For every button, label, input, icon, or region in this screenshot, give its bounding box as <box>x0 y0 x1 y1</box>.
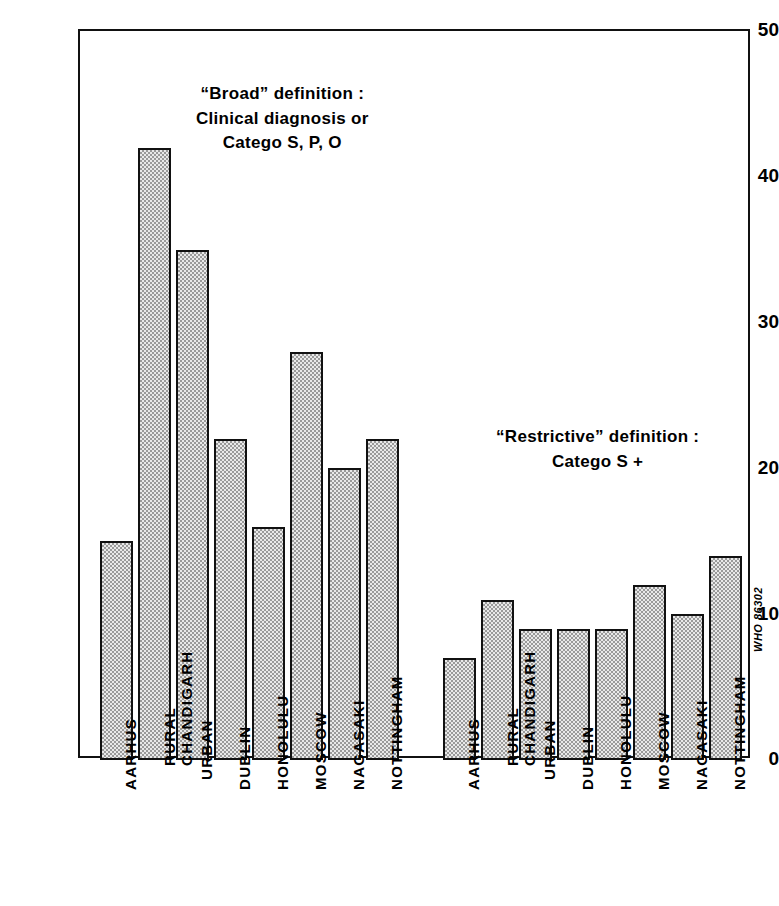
x-axis-label-line: NOTTINGHAM <box>731 640 748 790</box>
x-axis-label-line: MOSCOW <box>312 640 329 790</box>
x-axis-label-dublin: DUBLIN <box>236 640 253 790</box>
bar-chart-figure: C a s e s p e r 1 0 0 , 0 0 0 50 40 30 2… <box>0 0 779 906</box>
x-axis-label-line: RURAL <box>161 616 178 766</box>
x-axis-label-honolulu: HONOLULU <box>617 640 634 790</box>
x-axis-label-moscow: MOSCOW <box>312 640 329 790</box>
x-axis-label-dublin: DUBLIN <box>579 640 596 790</box>
x-axis-label-urban-chandigarh: URBAN <box>198 630 215 780</box>
x-axis-label-aarhus: AARHUS <box>465 640 482 790</box>
annotation-line: Clinical diagnosis or <box>196 107 369 132</box>
x-axis-label-nottingham: NOTTINGHAM <box>388 640 405 790</box>
x-axis-label-moscow: MOSCOW <box>655 640 672 790</box>
x-axis-label-line: DUBLIN <box>236 640 253 790</box>
x-axis-label-line: AARHUS <box>122 640 139 790</box>
who-credit-label: WHO 86302 <box>752 542 764 652</box>
x-axis-label-aarhus: AARHUS <box>122 640 139 790</box>
x-axis-label-line: NOTTINGHAM <box>388 640 405 790</box>
x-axis-label-line: CHANDIGARH <box>521 616 538 766</box>
annotation-broad-definition: “Broad” definition :Clinical diagnosis o… <box>196 82 369 156</box>
x-axis-label-line: NAGASAKI <box>693 640 710 790</box>
x-axis-label-nagasaki: NAGASAKI <box>693 640 710 790</box>
x-axis-label-line: CHANDIGARH <box>178 616 195 766</box>
annotation-line: “Broad” definition : <box>196 82 369 107</box>
x-axis-label-line: NAGASAKI <box>350 640 367 790</box>
x-axis-label-line: AARHUS <box>465 640 482 790</box>
x-axis-label-honolulu: HONOLULU <box>274 640 291 790</box>
x-axis-label-line: DUBLIN <box>579 640 596 790</box>
annotation-restrictive-definition: “Restrictive” definition :Catego S + <box>496 425 699 474</box>
x-axis-label-line: RURAL <box>504 616 521 766</box>
x-axis-label-line: URBAN <box>541 630 558 780</box>
x-axis-label-line: URBAN <box>198 630 215 780</box>
x-axis-label-rural-chandigarh: RURALCHANDIGARH <box>161 616 195 766</box>
annotation-line: Catego S + <box>496 450 699 475</box>
x-axis-label-line: HONOLULU <box>274 640 291 790</box>
annotation-line: Catego S, P, O <box>196 131 369 156</box>
x-axis-label-nagasaki: NAGASAKI <box>350 640 367 790</box>
x-axis-label-line: MOSCOW <box>655 640 672 790</box>
x-axis-label-rural-chandigarh: RURALCHANDIGARH <box>504 616 538 766</box>
annotation-line: “Restrictive” definition : <box>496 425 699 450</box>
x-axis-label-line: HONOLULU <box>617 640 634 790</box>
x-axis-label-nottingham: NOTTINGHAM <box>731 640 748 790</box>
x-axis-label-urban-chandigarh: URBAN <box>541 630 558 780</box>
